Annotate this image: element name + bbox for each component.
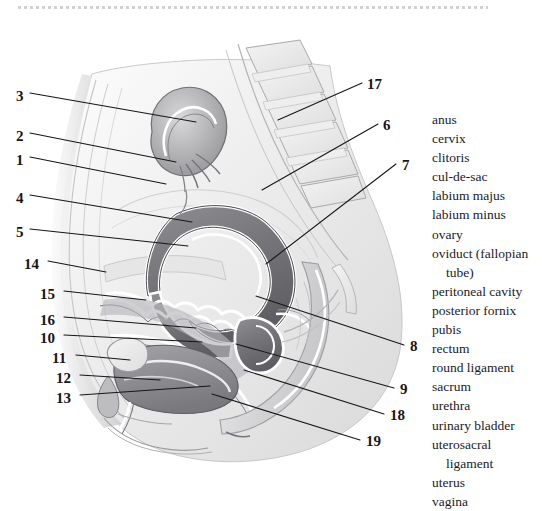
legend-item-label: labium minus bbox=[432, 207, 506, 222]
callout-number-8: 8 bbox=[410, 339, 418, 354]
legend-item: uterosacralligament bbox=[432, 435, 542, 473]
legend-item-label: peritoneal cavity bbox=[432, 284, 522, 299]
callout-number-4: 4 bbox=[16, 191, 24, 206]
callout-number-11: 11 bbox=[52, 351, 66, 366]
legend-list: anuscervixclitoriscul-de-saclabium majus… bbox=[432, 110, 542, 511]
callout-number-15: 15 bbox=[40, 287, 55, 302]
callout-number-6: 6 bbox=[383, 118, 391, 133]
callout-number-9: 9 bbox=[400, 382, 408, 397]
legend-item-label: cul-de-sac bbox=[432, 169, 487, 184]
legend-item-label: pubis bbox=[432, 322, 461, 337]
legend-item-label: sacrum bbox=[432, 379, 471, 394]
callout-number-16: 16 bbox=[40, 313, 55, 328]
legend-item: pubis bbox=[432, 320, 542, 339]
callout-number-2: 2 bbox=[16, 129, 24, 144]
legend-item: sacrum bbox=[432, 377, 542, 396]
legend-item-label: rectum bbox=[432, 341, 469, 356]
callout-number-10: 10 bbox=[40, 331, 55, 346]
legend-item: rectum bbox=[432, 339, 542, 358]
legend-item-label: round ligament bbox=[432, 360, 514, 375]
legend-item-label: urethra bbox=[432, 398, 470, 413]
legend-item-label: oviduct (fallopian bbox=[432, 246, 528, 261]
callout-number-17: 17 bbox=[367, 77, 382, 92]
legend-item: peritoneal cavity bbox=[432, 282, 542, 301]
legend-item: labium minus bbox=[432, 205, 542, 224]
legend-item: uterus bbox=[432, 473, 542, 492]
legend-item-label-continuation: ligament bbox=[432, 454, 542, 473]
pubis bbox=[108, 338, 148, 371]
legend-item-label: posterior fornix bbox=[432, 303, 516, 318]
legend-item: round ligament bbox=[432, 358, 542, 377]
legend-item: oviduct (fallopiantube) bbox=[432, 244, 542, 282]
legend-item-label: uterus bbox=[432, 475, 465, 490]
callout-number-14: 14 bbox=[24, 257, 39, 272]
legend-item-label: anus bbox=[432, 112, 457, 127]
legend-item-label: urinary bladder bbox=[432, 418, 515, 433]
callout-number-7: 7 bbox=[402, 158, 410, 173]
legend-item: vagina bbox=[432, 492, 542, 511]
legend-item-label: labium majus bbox=[432, 188, 505, 203]
callout-number-13: 13 bbox=[56, 391, 71, 406]
legend-item: labium majus bbox=[432, 186, 542, 205]
legend-item-label-continuation: tube) bbox=[432, 263, 542, 282]
legend-item-label: ovary bbox=[432, 227, 463, 242]
legend-item-label: vagina bbox=[432, 494, 468, 509]
legend-item-label: cervix bbox=[432, 131, 466, 146]
callout-number-5: 5 bbox=[16, 225, 24, 240]
callout-number-3: 3 bbox=[16, 89, 24, 104]
callout-number-18: 18 bbox=[390, 408, 405, 423]
legend-item: urethra bbox=[432, 396, 542, 415]
callout-number-1: 1 bbox=[16, 153, 24, 168]
legend-item: urinary bladder bbox=[432, 416, 542, 435]
legend-item: clitoris bbox=[432, 148, 542, 167]
callout-number-19: 19 bbox=[366, 434, 381, 449]
callout-number-12: 12 bbox=[56, 371, 71, 386]
legend-item-label: clitoris bbox=[432, 150, 470, 165]
legend-item-label: uterosacral bbox=[432, 437, 491, 452]
legend-item: cul-de-sac bbox=[432, 167, 542, 186]
legend-item: anus bbox=[432, 110, 542, 129]
legend-item: posterior fornix bbox=[432, 301, 542, 320]
legend-item: ovary bbox=[432, 225, 542, 244]
legend-item: cervix bbox=[432, 129, 542, 148]
page-top-rule bbox=[18, 6, 488, 9]
